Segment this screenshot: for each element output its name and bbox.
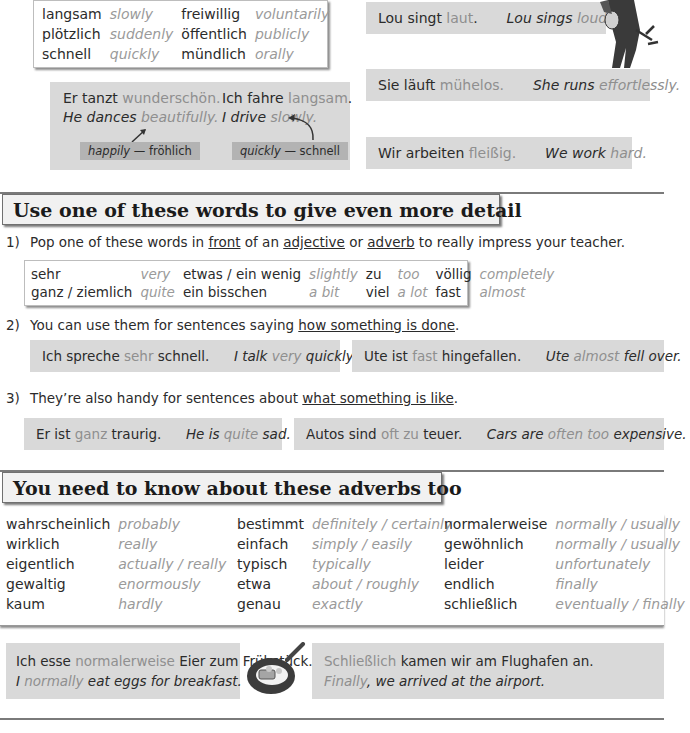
vocab-en: actually / really	[118, 554, 234, 574]
text: They’re also handy for sentences about	[30, 390, 302, 406]
example-box-dances: Er tanzt wunderschön. He dances beautifu…	[50, 82, 350, 170]
example-line-en: I normally eat eggs for breakfast.	[16, 671, 230, 691]
vocab-de: freiwillig	[181, 4, 255, 24]
example-line-de: Schließlich kamen wir am Flughafen an.	[324, 651, 652, 671]
vocab-en: orally	[255, 44, 337, 64]
highlight: often too	[548, 426, 609, 442]
vocab-en: publicly	[255, 24, 337, 44]
text: quickly.	[302, 348, 357, 364]
vocab-en: enormously	[118, 574, 234, 594]
highlight: oft zu	[381, 426, 419, 442]
vocab-en: hardly	[118, 594, 234, 614]
vocab-en: really	[118, 534, 234, 554]
vocab-de: zu	[366, 265, 398, 283]
underlined-text: what something is like	[302, 390, 453, 406]
vocab-en: finally	[555, 574, 690, 594]
vocab-de: bestimmt	[237, 514, 312, 534]
vocab-de: etwas / ein wenig	[183, 265, 309, 283]
example-left-de: Er tanzt wunderschön.	[63, 89, 221, 107]
vocab-en: suddenly	[110, 24, 182, 44]
vocab-de: etwa	[237, 574, 312, 594]
text: quickly	[240, 144, 281, 158]
highlight: ganz	[75, 426, 107, 442]
text: Ute	[546, 348, 574, 364]
vocab-en: exactly	[312, 594, 460, 614]
adverb-list: wahrscheinlichprobably wirklichreally ei…	[0, 514, 664, 626]
text: .	[455, 317, 459, 333]
highlight: beautifully	[141, 109, 214, 125]
tag-happily: happily — fröhlich	[80, 142, 200, 160]
text: He dances	[63, 109, 141, 125]
point-number: 3)	[6, 389, 30, 407]
vocab-de: wahrscheinlich	[6, 514, 118, 534]
vocab-en: probably	[118, 514, 234, 534]
highlight: very	[272, 348, 302, 364]
example-ganz: Er ist ganz traurig. He is quite sad.	[24, 418, 282, 450]
vocab-en: too	[398, 265, 436, 283]
text: .	[473, 10, 477, 26]
curved-arrow-icon	[280, 110, 320, 142]
text: .	[348, 90, 352, 106]
vocab-de: völlig	[435, 265, 479, 283]
vocab-de: typisch	[237, 554, 312, 574]
vocab-de: gewaltig	[6, 574, 118, 594]
vocab-de: leider	[444, 554, 555, 574]
text: He is	[186, 426, 224, 442]
vocab-en: normally / usually	[555, 514, 690, 534]
highlight: mühelos	[440, 77, 500, 93]
vocab-de: langsam	[42, 4, 110, 24]
vocab-de: gewöhnlich	[444, 534, 555, 554]
example-right-de: Ich fahre langsam.	[222, 89, 352, 107]
text: eat eggs for breakfast.	[84, 673, 242, 689]
text: Wir arbeiten	[378, 145, 469, 161]
underlined-text: front	[208, 234, 240, 250]
point-number: 2)	[6, 316, 30, 334]
text: sad.	[258, 426, 290, 442]
text: Lou sings	[507, 10, 577, 26]
vocab-de: sehr	[31, 265, 140, 283]
text: fröhlich	[149, 144, 192, 158]
vocab-table-top: langsam slowly freiwillig voluntarily pl…	[42, 4, 337, 64]
vocab-table-detail: sehr very etwas / ein wenig slightly zu …	[31, 265, 562, 301]
text: I talk	[234, 348, 272, 364]
vocab-de: ein bisschen	[183, 283, 309, 301]
vocab-en: almost	[480, 283, 563, 301]
underlined-text: how something is done	[298, 317, 455, 333]
vocab-en: very	[140, 265, 182, 283]
highlight: laut	[446, 10, 473, 26]
underlined-text: adverb	[367, 234, 414, 250]
text: to really impress your teacher.	[415, 234, 626, 250]
highlight: wunderschön	[122, 90, 216, 106]
rock-singer-illustration	[590, 0, 664, 68]
tag-quickly: quickly — schnell	[232, 142, 348, 160]
vocab-en: completely	[480, 265, 563, 283]
vocab-en: eventually / finally	[555, 594, 690, 614]
text: teuer.	[419, 426, 462, 442]
text: or	[345, 234, 367, 250]
vocab-de: normalerweise	[444, 514, 555, 534]
vocab-en: slowly	[110, 4, 182, 24]
text: She runs	[533, 77, 599, 93]
text: .	[454, 390, 458, 406]
example-schliesslich: Schließlich kamen wir am Flughafen an. F…	[312, 643, 664, 699]
sentence-lou: Lou singt laut. Lou sings loudly.	[366, 2, 606, 34]
text: Er tanzt	[63, 90, 122, 106]
text: I drive	[222, 109, 270, 125]
text: schnell.	[153, 348, 209, 364]
text: Sie läuft	[378, 77, 440, 93]
text: traurig.	[107, 426, 161, 442]
vocab-de: eigentlich	[6, 554, 118, 574]
adverb-column-2: bestimmtdefinitely / certainly einfachsi…	[237, 514, 460, 614]
vocab-de: einfach	[237, 534, 312, 554]
vocab-de: endlich	[444, 574, 555, 594]
highlight: normally	[24, 673, 83, 689]
text: Cars are	[487, 426, 548, 442]
vocab-de: wirklich	[6, 534, 118, 554]
vocab-de: genau	[237, 594, 312, 614]
highlight: almost	[574, 348, 620, 364]
vocab-de: kaum	[6, 594, 118, 614]
highlight: hard	[610, 145, 642, 161]
example-sehr: Ich spreche sehr schnell. I talk very qu…	[30, 340, 340, 372]
text: .	[676, 77, 680, 93]
adverb-column-3: normalerweisenormally / usually gewöhnli…	[444, 514, 690, 614]
